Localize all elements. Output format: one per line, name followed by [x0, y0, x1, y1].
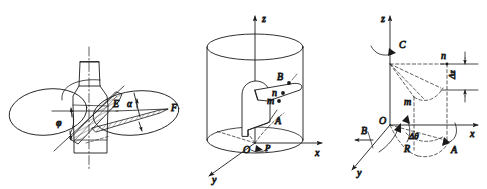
label-ax-A: A	[450, 144, 458, 155]
cylinder-panel: z x y O	[207, 13, 322, 185]
point-m	[277, 99, 281, 103]
label-ax-x: x	[469, 128, 475, 139]
axes-panel: z x y O C A	[352, 13, 478, 178]
label-phi: φ	[56, 117, 62, 128]
label-ax-R: R	[403, 143, 410, 154]
propeller-panel: φ α E F	[6, 47, 181, 170]
label-cyl-A: A	[274, 115, 282, 126]
point-n	[281, 91, 285, 95]
label-E: E	[112, 98, 119, 109]
label-cyl-m: m	[267, 95, 274, 106]
label-ax-n: n	[441, 50, 446, 61]
label-delta-z: Δz	[447, 70, 457, 80]
point-B	[287, 81, 291, 85]
angle-alpha-indicator	[134, 93, 142, 131]
label-ax-m: m	[404, 96, 411, 107]
rotation-arrow-C	[371, 46, 396, 56]
cylinder-base-hidden-radius	[216, 131, 255, 143]
label-ax-C: C	[399, 39, 406, 50]
label-ax-O: O	[379, 115, 386, 126]
point-B-leader	[292, 74, 297, 80]
label-ax-y: y	[356, 167, 362, 178]
label-ax-z: z	[380, 13, 385, 24]
label-cyl-B: B	[277, 71, 283, 82]
label-F: F	[170, 102, 178, 113]
axes-dashed-ray-2	[390, 64, 441, 88]
label-cyl-P: P	[264, 143, 271, 153]
label-alpha: α	[127, 99, 133, 109]
rotation-arrow-A	[442, 123, 457, 146]
axes-dashed-ray-1	[390, 64, 425, 100]
label-delta-theta: Δθ	[408, 131, 419, 141]
label-ax-B: B	[361, 125, 367, 136]
technical-figure: φ α E F z x y O	[0, 0, 487, 189]
figure-canvas: φ α E F z x y O	[0, 0, 487, 189]
label-cyl-x: x	[314, 147, 320, 158]
label-cyl-y: y	[211, 174, 217, 185]
propeller-hidden-edge	[86, 136, 110, 143]
axes-dashed-upper-arc	[414, 88, 443, 100]
axes-dashed-ray-3	[390, 64, 414, 97]
label-cyl-z: z	[261, 13, 266, 24]
axes-y-axis	[352, 125, 390, 170]
